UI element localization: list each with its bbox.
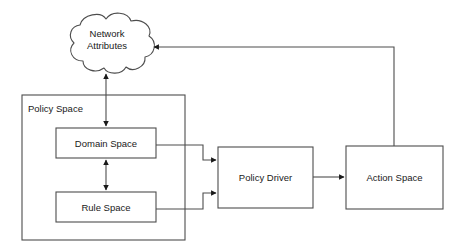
- network-attributes-label-line2: Attributes: [87, 40, 127, 51]
- node-domain-space[interactable]: Domain Space: [56, 128, 156, 158]
- node-action-space[interactable]: Action Space: [346, 146, 443, 209]
- action-space-label: Action Space: [367, 172, 423, 183]
- diagram-svg: Policy Space Network Attributes Domain S…: [0, 0, 465, 252]
- edge-rule-space-policy-driver: [156, 193, 216, 209]
- policy-space-label: Policy Space: [28, 103, 83, 114]
- rule-space-label: Rule Space: [81, 202, 130, 213]
- domain-space-label: Domain Space: [75, 138, 137, 149]
- node-rule-space[interactable]: Rule Space: [56, 192, 156, 222]
- policy-driver-label: Policy Driver: [239, 172, 292, 183]
- edge-action-space-network-attributes: [154, 47, 394, 146]
- network-attributes-label-line1: Network: [90, 28, 125, 39]
- edge-domain-space-policy-driver: [156, 145, 216, 160]
- diagram-canvas: Policy Space Network Attributes Domain S…: [0, 0, 465, 252]
- node-policy-driver[interactable]: Policy Driver: [218, 147, 313, 208]
- node-network-attributes[interactable]: Network Attributes: [70, 13, 154, 73]
